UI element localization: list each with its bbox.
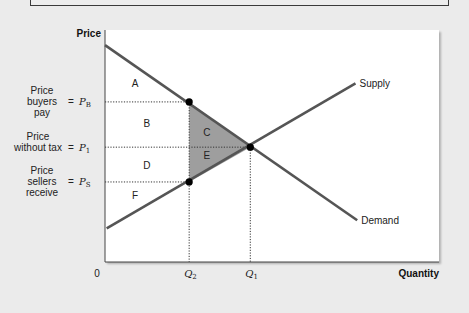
buyers-price-point — [186, 98, 193, 105]
x-axis-title: Quantity — [398, 268, 439, 279]
deadweight-loss-triangle — [189, 102, 250, 182]
supply-curve-label: Supply — [360, 78, 391, 89]
price-symbol-PB: PB — [78, 96, 91, 109]
supply-curve — [107, 83, 356, 228]
equals-sign: = — [68, 176, 74, 187]
price-label-line: pay — [34, 107, 50, 118]
sellers-price-point — [186, 178, 193, 185]
price-label-line: Price — [31, 165, 54, 176]
tax-deadweight-diagram: SupplyDemandABCDEFPriceQuantity0Pricebuy… — [0, 0, 469, 313]
price-subscript: B — [86, 101, 91, 109]
quantity-label-Q2: Q2 — [184, 268, 197, 281]
price-label-line: receive — [26, 187, 59, 198]
quantity-subscript: 2 — [192, 273, 196, 281]
price-label-PB: Pricebuyerspay=PB — [27, 85, 91, 118]
price-label-PS: Pricesellersreceive=PS — [26, 165, 91, 198]
origin-label: 0 — [94, 268, 100, 279]
equals-sign: = — [68, 142, 74, 153]
price-label-line: Price — [27, 131, 50, 142]
demand-curve — [105, 45, 357, 220]
price-subscript: 1 — [86, 147, 90, 155]
price-subscript: S — [86, 181, 91, 189]
price-label-line: Price — [31, 85, 54, 96]
equals-sign: = — [68, 96, 74, 107]
price-label-line: sellers — [28, 176, 57, 187]
price-symbol-PS: PS — [78, 176, 91, 189]
price-label-line: without tax — [13, 142, 62, 153]
price-label-line: buyers — [27, 96, 57, 107]
y-axis-title: Price — [77, 28, 102, 39]
quantity-label-Q1: Q1 — [245, 268, 258, 281]
region-label-d: D — [143, 160, 150, 171]
price-label-P1: Pricewithout tax=P1 — [13, 131, 90, 155]
price-symbol-P1: P1 — [78, 142, 90, 155]
equilibrium-point — [247, 144, 254, 151]
demand-curve-label: Demand — [361, 215, 399, 226]
region-label-b: B — [143, 118, 150, 129]
quantity-subscript: 1 — [253, 273, 257, 281]
region-label-c: C — [203, 127, 210, 138]
region-label-e: E — [204, 150, 211, 161]
region-label-f: F — [132, 190, 138, 201]
region-label-a: A — [132, 78, 139, 89]
